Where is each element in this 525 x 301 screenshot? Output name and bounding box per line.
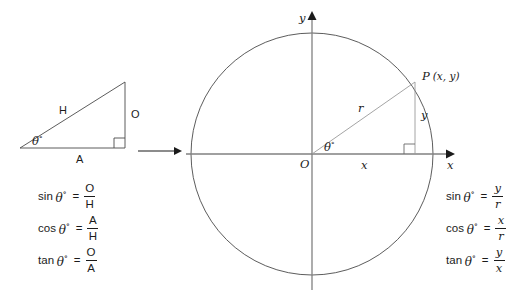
formula-equals-sign: = (484, 223, 491, 235)
formula-function-name: cos (38, 223, 56, 235)
fraction-bar (84, 196, 95, 197)
triangle-definitions-list: sin θ° = O H cos θ° = A H tan θ° = O (38, 184, 98, 274)
y-axis-label: y (298, 11, 306, 25)
transition-arrow-icon (138, 147, 182, 155)
formula-angle-arg: θ° (465, 255, 476, 268)
x-axis-label: x (447, 158, 454, 172)
formula-fraction: y r (492, 183, 503, 210)
formula-angle-arg: θ° (464, 191, 475, 204)
triangle-angle-label: θ° (32, 134, 42, 148)
fraction-bar (87, 228, 98, 229)
unit-circle-group (186, 11, 455, 290)
formula-function-name: cos (446, 223, 464, 235)
triangle-right-angle-icon (114, 138, 125, 148)
fraction-numerator: y (495, 247, 504, 259)
triangle-hypotenuse-label: H (59, 104, 67, 116)
formula-tan-circle: tan θ° = y x (446, 248, 506, 274)
formula-function-name: sin (38, 191, 53, 203)
formula-function-name: tan (446, 255, 462, 267)
fraction-numerator: y (493, 183, 502, 195)
fraction-bar (86, 260, 97, 261)
fraction-denominator: A (86, 263, 96, 275)
circle-right-angle-icon (404, 144, 415, 154)
fraction-denominator: r (494, 199, 502, 211)
formula-sin-triangle: sin θ° = O H (38, 184, 98, 210)
fraction-denominator: x (495, 263, 504, 275)
fraction-numerator: x (497, 215, 506, 227)
formula-equals-sign: = (74, 255, 81, 267)
origin-label: O (300, 157, 310, 171)
formula-angle-arg: θ° (57, 255, 68, 268)
fraction-denominator: H (88, 231, 98, 243)
formula-fraction: O A (86, 247, 97, 274)
formula-angle-arg: θ° (56, 191, 67, 204)
formula-angle-arg: θ° (59, 223, 70, 236)
formula-equals-sign: = (76, 223, 83, 235)
circle-angle-label: θ° (324, 140, 334, 154)
y-axis-arrowhead-icon (308, 11, 317, 20)
fraction-denominator: r (497, 231, 505, 243)
formula-angle-arg: θ° (467, 223, 478, 236)
fraction-numerator: O (84, 183, 95, 195)
formula-equals-sign: = (482, 255, 489, 267)
formula-cos-triangle: cos θ° = A H (38, 216, 98, 242)
point-p-label: P(x, y) (421, 69, 459, 83)
formula-function-name: tan (38, 255, 54, 267)
formula-fraction: y x (494, 247, 505, 274)
formula-equals-sign: = (481, 191, 488, 203)
formula-fraction: A H (87, 215, 98, 242)
triangle-opposite-label: O (131, 108, 140, 120)
fraction-denominator: H (85, 199, 95, 211)
trigonometry-figure: θ° H O A y x O (0, 0, 525, 301)
formula-tan-triangle: tan θ° = O A (38, 248, 98, 274)
triangle-adjacent-label: A (76, 153, 84, 165)
radius-label: r (358, 101, 365, 115)
formula-equals-sign: = (73, 191, 80, 203)
formula-sin-circle: sin θ° = y r (446, 184, 506, 210)
formula-function-name: sin (446, 191, 461, 203)
circle-definitions-list: sin θ° = y r cos θ° = x r tan θ° = y (446, 184, 506, 274)
vertical-leg-label: y (420, 108, 428, 122)
horizontal-leg-label: x (361, 158, 368, 172)
formula-fraction: x r (495, 215, 506, 242)
formula-cos-circle: cos θ° = x r (446, 216, 506, 242)
fraction-numerator: A (88, 215, 98, 227)
formula-fraction: O H (84, 183, 95, 210)
fraction-numerator: O (86, 247, 97, 259)
y-axis (308, 11, 317, 290)
